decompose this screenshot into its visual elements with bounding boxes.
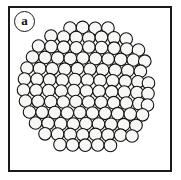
- packed-circle: [79, 139, 92, 152]
- packed-circle: [54, 138, 67, 151]
- packed-circle: [55, 85, 68, 98]
- packed-circle: [114, 129, 127, 142]
- packed-circle: [80, 85, 93, 98]
- figure-root: a: [0, 0, 181, 180]
- packed-circles-group: [17, 21, 155, 152]
- packed-circle: [105, 85, 118, 98]
- packed-circle: [80, 117, 93, 130]
- packed-circle: [21, 62, 34, 75]
- packed-circle: [39, 128, 52, 141]
- packed-circle: [29, 117, 42, 130]
- packed-circle: [126, 130, 139, 143]
- packed-circle: [17, 84, 30, 97]
- panel-label-a: a: [14, 11, 35, 32]
- packed-circle: [68, 84, 81, 97]
- packed-circle: [142, 87, 155, 100]
- packed-circle: [92, 139, 105, 152]
- packed-circle: [93, 85, 106, 98]
- packed-circle: [42, 84, 55, 97]
- packed-circle: [104, 139, 117, 152]
- packed-circle: [30, 84, 43, 97]
- packed-circle: [118, 86, 131, 99]
- packed-circle: [66, 139, 79, 152]
